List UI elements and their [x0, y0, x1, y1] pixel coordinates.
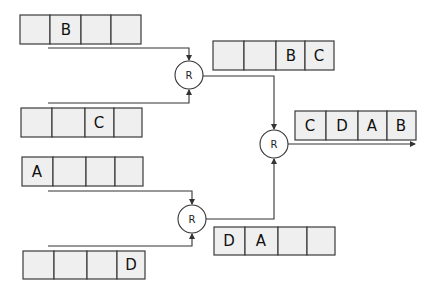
queue-cell: [86, 157, 115, 186]
queue-cell-label: B: [396, 117, 406, 135]
router-node-label: R: [271, 139, 278, 150]
queue-cell: [114, 108, 142, 137]
queue-cell-label: C: [94, 114, 104, 132]
queue-cell: [53, 157, 86, 186]
connector-arrow-icon: [48, 234, 192, 246]
queue-cell: [278, 227, 307, 255]
queue-merge-top: B C: [213, 41, 334, 70]
connector-arrow-icon: [48, 191, 192, 204]
router-node-r1: R: [175, 61, 203, 89]
queue-cell-label: A: [367, 117, 378, 135]
queue-cell-label: C: [314, 47, 324, 65]
queue-input-1: B: [20, 15, 141, 44]
queue-cell: [23, 251, 54, 279]
queue-cell: [244, 41, 276, 70]
queue-cell-label: D: [336, 117, 348, 135]
queue-cell: [20, 15, 50, 44]
router-node-label: R: [189, 214, 196, 225]
queue-cell: [87, 251, 117, 279]
queue-input-2: C: [21, 108, 142, 137]
router-node-r3: R: [260, 130, 288, 158]
queue-cell-label: B: [286, 47, 296, 65]
router-node-label: R: [186, 70, 193, 81]
queue-cell-label: D: [125, 256, 137, 274]
queue-cell-label: D: [223, 232, 235, 250]
queue-cell: [111, 15, 141, 44]
queue-cell-label: B: [61, 21, 71, 39]
connector-arrow-icon: [203, 76, 274, 129]
connector-arrow-icon: [48, 90, 189, 103]
queue-cell: [115, 157, 143, 186]
queue-cell: [21, 108, 52, 137]
queue-input-4: D: [23, 251, 145, 279]
merge-network-diagram: B C A D: [0, 0, 433, 294]
connector-arrow-icon: [48, 48, 189, 60]
queue-merge-bottom: D A: [214, 227, 335, 255]
router-node-r2: R: [178, 205, 206, 233]
queue-cell: [54, 251, 87, 279]
queue-cell: [213, 41, 244, 70]
queue-cell-label: C: [305, 117, 315, 135]
queue-cell: [307, 227, 335, 255]
queue-output: C D A B: [295, 111, 416, 140]
queue-cell: [52, 108, 85, 137]
connector-arrow-icon: [206, 159, 274, 219]
queue-cell-label: A: [256, 232, 267, 250]
queue-cell: [81, 15, 111, 44]
queue-cell-label: A: [32, 163, 43, 181]
queue-input-3: A: [22, 157, 143, 186]
